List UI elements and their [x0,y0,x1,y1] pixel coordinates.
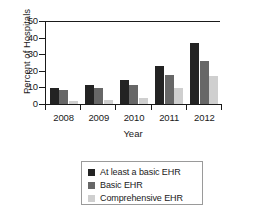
x-axis-category-label: 2011 [149,112,189,123]
y-axis-tick-label: 10 [2,82,38,92]
bar [190,43,199,104]
bar [200,61,209,104]
x-axis-tick [151,104,152,110]
bar [85,85,94,104]
bar [209,76,218,104]
bar [94,88,103,104]
legend-label: At least a basic EHR [100,168,181,177]
x-axis-category-label: 2012 [184,112,224,123]
x-axis-category-label: 2010 [114,112,154,123]
bar-group [120,21,148,104]
bar-group [85,21,113,104]
x-axis-tick [45,104,46,110]
bar [139,98,148,104]
bar [129,85,138,104]
y-axis-tick-label: 0 [2,99,38,109]
x-axis-category-label: 2008 [44,112,84,123]
bar [104,100,113,104]
x-axis-line [45,104,221,105]
x-axis-title: Year [45,128,221,139]
x-axis-tick [186,104,187,110]
bar [50,88,59,104]
legend-item: At least a basic EHR [88,166,197,178]
legend-swatch-icon [88,182,95,189]
chart-figure: Percent of Hospitals 01020304050 2008200… [0,0,258,216]
y-axis-tick-label: 40 [2,33,38,43]
bar-groups [45,21,221,104]
y-axis-tick-label: 20 [2,66,38,76]
bar [155,66,164,105]
x-axis-tick [115,104,116,110]
y-axis-labels: 01020304050 [0,0,38,216]
bar [69,101,78,104]
bar-group [50,21,78,104]
bar-group [190,21,218,104]
bar-group [155,21,183,104]
chart-legend: At least a basic EHRBasic EHRComprehensi… [81,161,203,205]
x-axis-tick [221,104,222,110]
legend-label: Comprehensive EHR [100,194,183,203]
bar [59,90,68,104]
bar [165,75,174,104]
legend-swatch-icon [88,169,95,176]
legend-item: Basic EHR [88,179,197,191]
x-axis-tick [80,104,81,110]
y-axis-tick-label: 30 [2,49,38,59]
bar [174,88,183,104]
y-axis-tick-label: 50 [2,16,38,26]
legend-swatch-icon [88,195,95,202]
x-axis-category-label: 2009 [79,112,119,123]
legend-label: Basic EHR [100,181,143,190]
bar [120,80,129,104]
legend-item: Comprehensive EHR [88,192,197,204]
